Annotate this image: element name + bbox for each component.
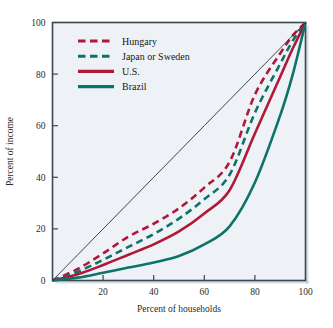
y-tick-label-80: 80 <box>36 70 46 80</box>
chart-canvas: 20406080100020406080100Percent of househ… <box>0 0 333 328</box>
legend-label-japan-or-sweden: Japan or Sweden <box>122 51 190 62</box>
legend-label-hungary: Hungary <box>122 36 157 47</box>
x-tick-label-100: 100 <box>298 287 313 297</box>
y-tick-label-40: 40 <box>36 173 46 183</box>
x-tick-label-40: 40 <box>149 287 159 297</box>
y-tick-label-0: 0 <box>41 276 46 286</box>
y-tick-label-60: 60 <box>36 121 46 131</box>
x-tick-label-80: 80 <box>250 287 260 297</box>
x-axis-title: Percent of households <box>137 304 221 314</box>
legend-label-u-s: U.S. <box>122 66 140 77</box>
y-tick-label-20: 20 <box>36 224 46 234</box>
x-tick-label-20: 20 <box>98 287 108 297</box>
y-tick-label-100: 100 <box>31 18 46 28</box>
y-axis-title: Percent of income <box>5 117 15 186</box>
x-tick-label-60: 60 <box>200 287 210 297</box>
legend-label-brazil: Brazil <box>122 81 147 92</box>
lorenz-curve-figure: 20406080100020406080100Percent of househ… <box>0 0 333 328</box>
